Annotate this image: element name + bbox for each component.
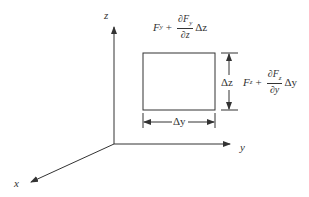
top-force-num: ∂F <box>178 13 189 24</box>
top-force-fraction: ∂Fy ∂z <box>177 14 193 40</box>
top-force-num-sub: y <box>189 19 192 27</box>
dy-label: Δy <box>173 116 186 127</box>
side-force-plus: + <box>255 77 261 88</box>
side-force-equation: Fz + ∂Fz ∂y Δy <box>243 69 297 95</box>
side-force-base: F <box>243 77 250 88</box>
side-force-num: ∂F <box>268 68 279 79</box>
top-force-den: ∂z <box>181 29 190 40</box>
top-force-equation: Fy + ∂Fy ∂z Δz <box>153 14 207 40</box>
top-force-tail: Δz <box>195 22 207 33</box>
fluid-element <box>143 53 215 110</box>
side-force-fraction: ∂Fz ∂y <box>267 69 283 95</box>
dz-label: Δz <box>221 77 233 88</box>
y-axis-label: y <box>240 142 245 153</box>
side-force-base-sub: z <box>250 78 253 86</box>
top-force-base: F <box>153 22 160 33</box>
x-axis <box>31 144 114 182</box>
side-force-num-sub: z <box>279 74 282 82</box>
z-axis-label: z <box>104 10 108 21</box>
x-axis-label: x <box>14 178 19 189</box>
top-force-plus: + <box>166 22 172 33</box>
top-force-base-sub: y <box>160 23 163 31</box>
side-force-tail: Δy <box>284 77 297 88</box>
side-force-den: ∂y <box>270 84 279 95</box>
